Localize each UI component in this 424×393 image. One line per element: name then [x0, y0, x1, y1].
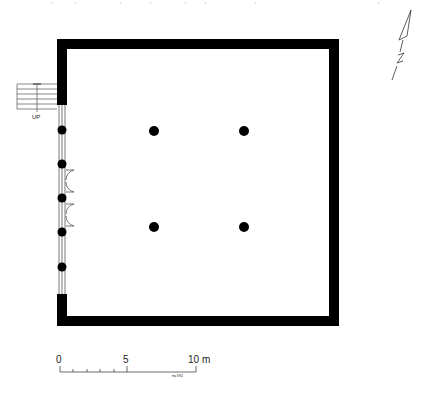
scale-note: ma 9/92: [172, 374, 183, 378]
interior-columns: [149, 126, 249, 232]
scale-tick-10: 10 m: [188, 354, 210, 365]
scale-tick-5: 5: [123, 354, 129, 365]
floor-plan: UP 0 5 10 m ma 9/92: [0, 0, 424, 393]
stair-up-label: UP: [32, 114, 40, 120]
north-arrow-icon: [392, 10, 411, 80]
scale-bar: [60, 366, 196, 372]
exterior-walls: [57, 39, 339, 326]
scan-artifacts: [52, 2, 379, 4]
stair: [17, 84, 57, 112]
scale-tick-0: 0: [56, 354, 62, 365]
door-swings: [66, 170, 74, 226]
